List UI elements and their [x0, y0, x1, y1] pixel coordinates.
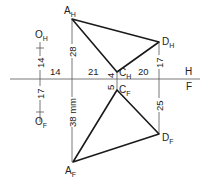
- label-a-h: AH: [64, 5, 76, 18]
- dim-o-f-depth: 17: [35, 88, 46, 99]
- dim-c-f-depth: 5: [105, 85, 116, 90]
- fold-label-h: H: [185, 66, 192, 77]
- projection-diagram: AH DH CH CF DF AF OH OF H F 14 21 20 14 …: [0, 0, 201, 179]
- fold-label-f: F: [186, 81, 192, 92]
- dim-a-f-depth: 38 mm: [67, 98, 78, 127]
- label-d-f: DF: [162, 132, 174, 145]
- label-d-h: DH: [162, 36, 174, 49]
- dim-o-to-a: 14: [50, 66, 61, 77]
- dim-c-to-d: 20: [138, 66, 149, 77]
- dim-a-h-height: 28: [67, 46, 78, 57]
- dim-d-h-height: 17: [154, 57, 165, 68]
- dim-d-f-depth: 25: [154, 100, 165, 111]
- dim-a-to-c: 21: [88, 66, 99, 77]
- label-o-h: OH: [35, 29, 48, 42]
- label-a-f: AF: [65, 165, 76, 178]
- label-c-h: CH: [119, 67, 131, 80]
- label-o-f: OF: [35, 116, 47, 129]
- front-view-triangle: [73, 90, 159, 162]
- dim-c-h-height: 4: [105, 73, 116, 78]
- dim-o-h-height: 14: [35, 57, 46, 68]
- top-view-triangle: [72, 19, 159, 72]
